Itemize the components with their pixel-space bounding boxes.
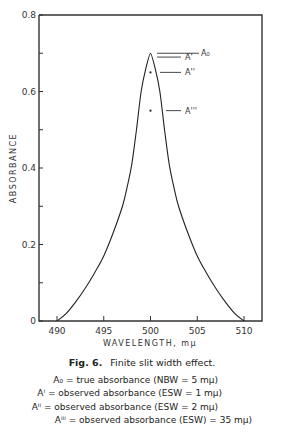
figure-legend: A₀ = true absorbance (NBW = 5 mμ) Aⁱ = o… <box>0 374 284 427</box>
legend-row: A₀ = true absorbance (NBW = 5 mμ) <box>0 374 284 387</box>
figure-caption-text: Finite slit width effect. <box>110 357 215 368</box>
legend-symbol: Aⁱ <box>37 388 45 398</box>
figure-caption: Fig. 6.Finite slit width effect. <box>0 357 284 368</box>
absorbance-curve <box>57 53 244 321</box>
legend-symbol: A₀ <box>53 375 63 385</box>
x-tick-label: 490 <box>48 326 65 336</box>
x-tick-label: 495 <box>95 326 112 336</box>
absorbance-chart: 49049550050551000.20.40.60.8 A₀A'A''A'''… <box>0 0 284 356</box>
legend-row: Aⁱ = observed absorbance (ESW = 1 mμ) <box>0 387 284 400</box>
legend-text: = observed absorbance (ESW) = 35 mμ) <box>69 415 252 425</box>
y-tick-label: 0.8 <box>22 10 37 20</box>
x-tick-label: 505 <box>189 326 206 336</box>
legend-row: Aⁱⁱ = observed absorbance (ESW = 2 mμ) <box>0 401 284 414</box>
plot-border <box>39 15 262 321</box>
annotation-point <box>149 71 151 73</box>
y-axis-title: ABSORBANCE <box>9 133 18 203</box>
annotation-label: A' <box>185 53 193 62</box>
figure-number: Fig. 6. <box>69 357 103 368</box>
annotation-label: A₀ <box>201 49 210 58</box>
plot-frame <box>39 15 262 321</box>
annotation-point <box>149 110 151 112</box>
x-tick-label: 510 <box>235 326 252 336</box>
y-tick-label: 0.6 <box>22 87 37 97</box>
legend-symbol: Aⁱⁱⁱ <box>55 415 66 425</box>
axis-ticks: 49049550050551000.20.40.60.8 <box>22 10 253 336</box>
y-tick-label: 0.2 <box>22 240 36 250</box>
legend-row: Aⁱⁱⁱ = observed absorbance (ESW) = 35 mμ… <box>0 414 284 427</box>
y-tick-label: 0.4 <box>22 163 37 173</box>
annotation-label: A'' <box>185 68 195 77</box>
legend-text: = observed absorbance (ESW = 2 mμ) <box>44 402 218 412</box>
x-tick-label: 500 <box>142 326 159 336</box>
legend-symbol: Aⁱⁱ <box>32 402 41 412</box>
y-tick-label: 0 <box>30 316 36 326</box>
x-axis-title: WAVELENGTH, mμ <box>103 339 197 348</box>
legend-text: = true absorbance (NBW = 5 mμ) <box>66 375 218 385</box>
annotation-label: A''' <box>185 107 197 116</box>
legend-text: = observed absorbance (ESW = 1 mμ) <box>48 388 222 398</box>
